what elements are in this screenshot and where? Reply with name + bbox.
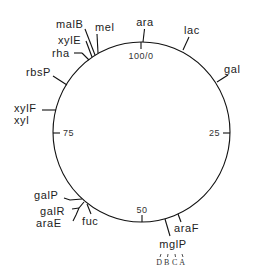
locus-label-ara: ara xyxy=(136,16,154,28)
genetic-map-diagram: 100/0 25 50 75 ara lac gal araF mglP D B… xyxy=(0,0,253,270)
locus-label-malB: malB xyxy=(56,18,83,30)
locus-line-lac xyxy=(183,37,189,50)
locus-line-galP xyxy=(64,198,82,200)
locus-label-xyl: xyl xyxy=(14,114,29,126)
locus-label-xylE: xylE xyxy=(58,34,81,46)
locus-label-gal: gal xyxy=(224,63,240,75)
locus-line-rbsP xyxy=(53,76,67,85)
tick-label-75: 75 xyxy=(63,128,74,138)
subunit-label-C: C xyxy=(172,258,179,267)
locus-label-mglP: mglP xyxy=(159,238,186,250)
locus-line-mel xyxy=(97,34,98,53)
tick-label-50: 50 xyxy=(136,205,147,215)
locus-label-rha: rha xyxy=(52,47,70,59)
locus-label-araE: araE xyxy=(36,217,62,229)
subunit-tick-C xyxy=(175,254,176,257)
tick-label-0: 100/0 xyxy=(128,51,153,61)
locus-label-galP: galP xyxy=(34,189,58,201)
subunit-label-B: B xyxy=(164,258,171,267)
locus-label-araF: araF xyxy=(174,222,199,234)
subunit-tick-B xyxy=(168,254,169,257)
locus-label-fuc: fuc xyxy=(82,215,98,227)
chromosome-circle xyxy=(53,42,230,222)
tick-label-25: 25 xyxy=(209,128,220,138)
locus-label-rbsP: rbsP xyxy=(26,66,51,78)
locus-label-lac: lac xyxy=(184,24,200,36)
locus-line-ara xyxy=(143,29,145,42)
locus-line-gal xyxy=(217,75,228,82)
locus-line-mglP xyxy=(165,219,170,236)
locus-label-mel: mel xyxy=(95,21,115,33)
subunit-tick-A xyxy=(182,254,183,257)
locus-label-galR: galR xyxy=(40,205,65,217)
locus-line-rha xyxy=(82,53,89,60)
subunit-label-A: A xyxy=(179,258,186,267)
subunit-tick-D xyxy=(160,254,161,257)
subunit-label-D: D xyxy=(156,258,163,267)
locus-line-galR xyxy=(72,208,79,209)
locus-label-xylF: xylF xyxy=(14,102,37,114)
locus-line-araF xyxy=(178,214,181,222)
